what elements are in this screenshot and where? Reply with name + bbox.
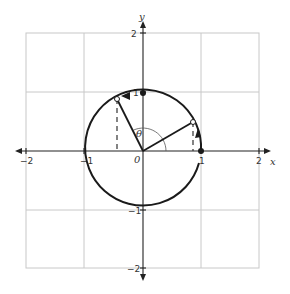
x-axis-right-arrow-icon: [264, 148, 271, 154]
radius-q1: [143, 122, 193, 151]
origin-label: 0: [134, 154, 141, 165]
point-q2: [115, 97, 120, 102]
point-q1: [191, 120, 196, 125]
unit-circle-diagram: x y −2 −1 1 2 2 1 −1 −2 0 θ: [0, 0, 290, 294]
x-tick-label: −2: [20, 156, 33, 166]
y-axis-label: y: [138, 11, 145, 22]
y-axis-up-arrow-icon: [140, 21, 146, 28]
y-tick-label: −2: [127, 264, 140, 274]
x-tick-label: 1: [199, 156, 205, 166]
x-tick-label: 2: [256, 156, 262, 166]
x-axis-label: x: [270, 156, 276, 167]
radius-q2: [117, 99, 143, 151]
point-on-x-axis: [198, 148, 204, 154]
point-on-y-axis: [140, 90, 146, 96]
y-tick-label: −1: [128, 206, 141, 216]
x-axis-left-arrow-icon: [15, 148, 22, 154]
y-axis-down-arrow-icon: [140, 274, 146, 281]
y-tick-label: 2: [131, 29, 137, 39]
